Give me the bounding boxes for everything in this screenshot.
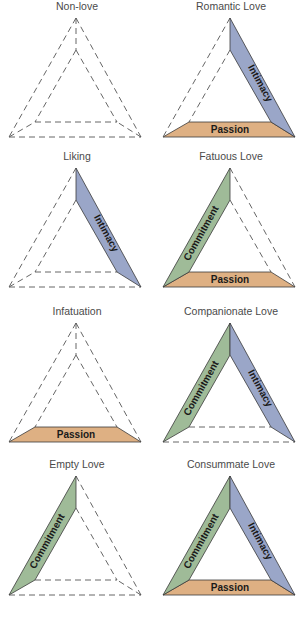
- triangle-graphic: Intimacy: [0, 150, 154, 305]
- panel-liking: LikingIntimacy: [0, 150, 154, 305]
- passion-label: Passion: [57, 429, 95, 440]
- commitment-band: [163, 168, 230, 287]
- passion-label: Passion: [211, 124, 249, 135]
- commitment-band: [163, 323, 230, 442]
- triangle-graphic: Passion: [0, 305, 154, 460]
- passion-label: Passion: [211, 274, 249, 285]
- panel-non-love: Non-love: [0, 0, 154, 155]
- triangle-graphic: CommitmentIntimacy: [154, 305, 308, 460]
- commitment-label: Commitment: [27, 511, 67, 570]
- triangle-graphic: PassionCommitment: [154, 150, 308, 305]
- commitment-band: [163, 476, 230, 595]
- passion-label: Passion: [211, 582, 249, 593]
- commitment-label: Commitment: [181, 203, 221, 262]
- triangle-graphic: [0, 0, 154, 155]
- panel-consummate-love: Consummate LovePassionCommitmentIntimacy: [154, 458, 308, 613]
- triangle-graphic: Commitment: [0, 458, 154, 613]
- panel-infatuation: InfatuationPassion: [0, 305, 154, 460]
- commitment-label: Commitment: [181, 358, 221, 417]
- commitment-label: Commitment: [181, 511, 221, 570]
- commitment-band: [9, 476, 76, 595]
- triangle-graphic: PassionCommitmentIntimacy: [154, 458, 308, 613]
- panel-companionate-love: Companionate LoveCommitmentIntimacy: [154, 305, 308, 460]
- panel-romantic-love: Romantic LovePassionIntimacy: [154, 0, 308, 155]
- panel-fatuous-love: Fatuous LovePassionCommitment: [154, 150, 308, 305]
- triangle-graphic: PassionIntimacy: [154, 0, 308, 155]
- panel-empty-love: Empty LoveCommitment: [0, 458, 154, 613]
